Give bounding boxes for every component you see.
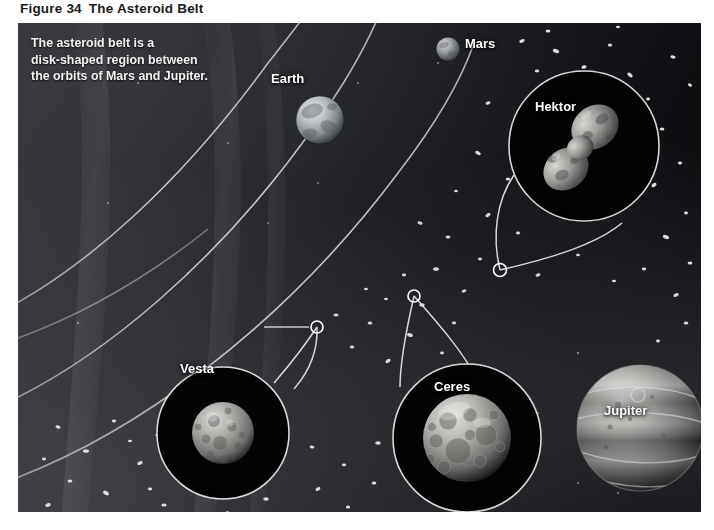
orbit-arc-outer <box>18 229 208 353</box>
planet-jupiter <box>576 365 701 491</box>
page-title: Figure 34The Asteroid Belt <box>20 1 204 16</box>
label-jupiter: Jupiter <box>604 403 647 418</box>
label-mars: Mars <box>465 36 495 51</box>
label-hektor: Hektor <box>535 99 576 114</box>
label-ceres: Ceres <box>434 379 470 394</box>
callout-hektor <box>509 71 659 221</box>
asteroid-belt-illustration: The asteroid belt is a disk-shaped regio… <box>18 23 701 512</box>
asteroid-belt-artwork <box>18 23 701 512</box>
leader-ceres-left <box>400 296 414 387</box>
planet-earth <box>296 96 344 144</box>
callout-vesta <box>157 367 289 499</box>
figure-title-text: The Asteroid Belt <box>89 1 204 16</box>
leader-hektor-right <box>500 223 622 270</box>
figure-number: Figure 34 <box>20 1 82 16</box>
figure-page: Figure 34The Asteroid Belt <box>0 0 714 530</box>
leader-hektor-left <box>496 175 514 270</box>
label-vesta: Vesta <box>180 361 214 376</box>
leader-vesta-right <box>294 327 317 389</box>
figure-caption: The asteroid belt is a disk-shaped regio… <box>31 35 291 85</box>
planet-mars <box>437 38 460 61</box>
label-earth: Earth <box>271 71 304 86</box>
